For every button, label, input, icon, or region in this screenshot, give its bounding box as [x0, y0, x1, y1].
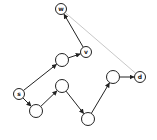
node-n2	[30, 105, 43, 118]
edge-n2-n3	[41, 91, 57, 107]
edge-n1-v	[68, 54, 80, 58]
node-n3	[56, 80, 69, 93]
node-circle	[107, 71, 120, 84]
node-circle	[56, 80, 69, 93]
node-circle	[30, 105, 43, 118]
edge-n4-n5	[91, 83, 109, 113]
node-w: w	[56, 4, 67, 15]
node-n5	[107, 71, 120, 84]
node-label: v	[84, 48, 88, 55]
edge-d-w	[66, 13, 136, 73]
edges-layer	[23, 13, 136, 114]
node-n4	[82, 113, 95, 126]
node-n1	[56, 54, 69, 67]
node-label: d	[138, 73, 142, 80]
edge-v-w	[64, 14, 83, 47]
edge-s-n2	[23, 98, 31, 106]
edge-s-n1	[23, 64, 56, 90]
edge-n3-n4	[66, 91, 84, 113]
node-circle	[82, 113, 95, 126]
node-circle	[56, 54, 69, 67]
node-s: s	[14, 89, 25, 100]
node-d: d	[135, 72, 146, 83]
node-v: v	[81, 47, 92, 58]
graph-canvas: wvsd	[0, 0, 157, 140]
node-label: w	[58, 5, 64, 12]
node-label: s	[17, 90, 21, 97]
